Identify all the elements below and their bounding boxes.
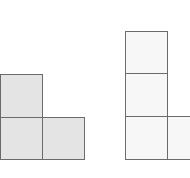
left-shape-square-bottom-right [42, 117, 85, 160]
right-shape-square-bottom-right [167, 116, 190, 160]
left-shape-square-top [0, 74, 43, 118]
left-shape-square-bottom-left [0, 117, 43, 160]
right-shape-square-middle [125, 73, 168, 117]
right-shape-square-bottom-left [125, 116, 168, 160]
right-shape-square-top [125, 31, 168, 74]
